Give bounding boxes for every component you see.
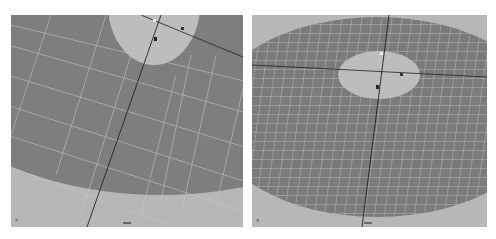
- pivot-handle: [380, 52, 383, 55]
- y-handle: [154, 37, 157, 41]
- disc-mesh-wide: [252, 15, 487, 227]
- scale-marker: [123, 222, 131, 224]
- scale-marker: [364, 222, 372, 224]
- pivot-handle: [153, 19, 156, 22]
- viewport-right[interactable]: z: [252, 15, 487, 227]
- x-handle: [400, 73, 403, 76]
- axis-indicator-icon: z: [256, 217, 259, 223]
- viewport-left[interactable]: z: [11, 15, 243, 227]
- disc-surface: [252, 17, 487, 217]
- disc-mesh-closeup: [11, 15, 243, 227]
- x-handle: [181, 27, 184, 30]
- axis-indicator-icon: z: [15, 217, 18, 223]
- y-handle: [376, 85, 379, 89]
